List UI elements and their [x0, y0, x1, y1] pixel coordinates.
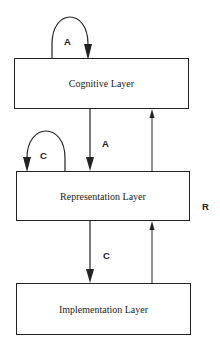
arrow-c-label: C — [103, 250, 110, 261]
representation-layer-label: Representation Layer — [60, 191, 146, 202]
loop-a-label: A — [64, 36, 71, 47]
up-arrow-r-lower-head-icon — [150, 221, 155, 230]
cognitive-layer-label: Cognitive Layer — [69, 78, 134, 89]
up-arrow-r-upper-head-icon — [150, 109, 155, 118]
r-label: R — [202, 201, 209, 212]
cognitive-layer-box: Cognitive Layer — [14, 58, 189, 109]
representation-layer-box: Representation Layer — [16, 171, 190, 221]
implementation-layer-box: Implementation Layer — [16, 283, 191, 335]
arrow-a-label: A — [102, 138, 109, 149]
implementation-layer-label: Implementation Layer — [59, 304, 148, 315]
down-arrow-c-head-icon — [86, 269, 94, 283]
loop-c-arrowhead-icon — [23, 157, 31, 172]
loop-c-label: C — [40, 150, 47, 161]
down-arrow-a-head-icon — [86, 157, 94, 171]
